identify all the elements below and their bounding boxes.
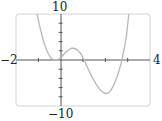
y-max-label: 10: [52, 1, 67, 13]
x-min-label: −2: [0, 54, 18, 66]
y-min-label: −10: [48, 108, 73, 120]
function-curve: [37, 14, 129, 94]
x-max-label: 4: [153, 54, 161, 66]
function-plot: [0, 0, 162, 121]
